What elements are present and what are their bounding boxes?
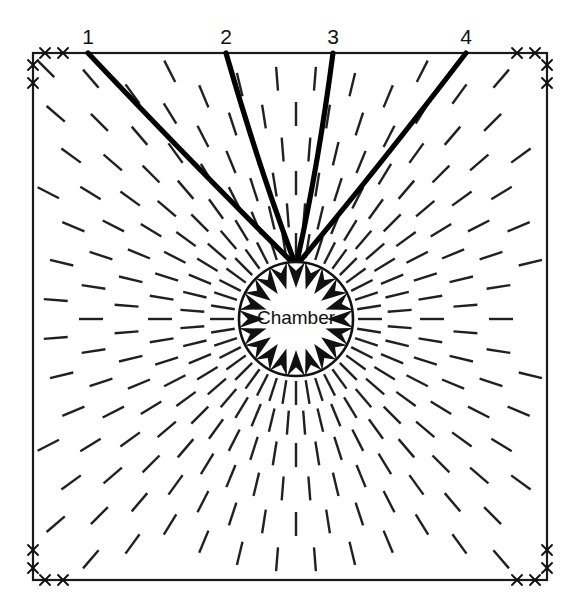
- radial-dash: [44, 337, 68, 339]
- radial-dash: [452, 192, 472, 206]
- radial-dash: [519, 260, 542, 266]
- radial-dash: [287, 411, 289, 435]
- radial-dash: [246, 369, 260, 388]
- radial-dash: [235, 363, 252, 380]
- radial-dash: [83, 550, 99, 568]
- radial-dash: [356, 389, 372, 407]
- radial-dash: [351, 347, 372, 358]
- radial-dash: [480, 252, 503, 260]
- radial-dash: [431, 224, 452, 237]
- radial-dash: [229, 113, 237, 136]
- radial-dash: [442, 249, 464, 258]
- radial-dash: [104, 155, 122, 171]
- radial-dash: [178, 181, 194, 199]
- radial-dash: [306, 380, 310, 404]
- radial-dash: [318, 206, 324, 229]
- radial-dash: [511, 149, 530, 163]
- radial-dash: [191, 407, 208, 424]
- radial-dash: [340, 363, 357, 380]
- radial-dash: [369, 199, 383, 218]
- radial-dash: [283, 380, 287, 404]
- radial-dash: [487, 349, 511, 353]
- radial-dash: [229, 430, 240, 451]
- radial-dash: [115, 305, 139, 307]
- radial-dash: [183, 292, 206, 298]
- radial-dash: [493, 550, 509, 568]
- radial-dash: [369, 419, 383, 438]
- radial-dash: [484, 507, 501, 524]
- radial-dash: [252, 404, 261, 426]
- radial-dash: [384, 531, 393, 553]
- radial-dash: [379, 164, 392, 185]
- radial-dash: [262, 105, 266, 129]
- radial-dash: [158, 422, 176, 438]
- radial-dash: [419, 338, 443, 342]
- radial-dash: [445, 493, 461, 511]
- radial-dash: [433, 456, 450, 473]
- radial-dash: [198, 126, 209, 147]
- radial-dash: [164, 61, 175, 82]
- radial-dash: [226, 465, 235, 487]
- radial-dash: [91, 507, 108, 524]
- radial-dash: [384, 407, 401, 424]
- radial-dash: [351, 280, 372, 291]
- radial-dash: [350, 542, 356, 565]
- radial-dash: [235, 258, 252, 275]
- radial-dash: [183, 341, 206, 347]
- radial-dash: [366, 244, 384, 260]
- radial-dash: [468, 407, 489, 418]
- radial-dash: [442, 380, 464, 389]
- radial-dash: [331, 404, 340, 426]
- radial-dash: [164, 514, 177, 534]
- radial-dash: [103, 221, 124, 232]
- radial-dash: [273, 442, 277, 466]
- radial-dash: [452, 84, 466, 103]
- radial-dash: [324, 374, 335, 395]
- radial-dash: [199, 531, 208, 553]
- radial-dash: [396, 232, 415, 246]
- radial-dash: [511, 475, 530, 489]
- radial-dash: [50, 260, 73, 266]
- radial-dash: [209, 419, 223, 438]
- radial-dash: [143, 166, 160, 183]
- radial-dash: [38, 440, 59, 451]
- radial-dash: [386, 341, 409, 347]
- diagram-canvas: 1234 Chamber: [0, 0, 582, 603]
- radial-dash: [470, 155, 488, 171]
- radial-dash: [103, 407, 124, 418]
- radial-dash: [80, 187, 100, 200]
- radial-dash: [480, 379, 503, 387]
- radial-dash: [356, 231, 372, 249]
- radial-dash: [508, 222, 530, 231]
- radial-dash: [346, 269, 365, 283]
- radial-dash: [226, 355, 245, 369]
- radial-dash: [191, 214, 208, 231]
- radial-dash: [128, 249, 150, 258]
- radial-dash: [374, 258, 395, 271]
- radial-dash: [399, 439, 415, 457]
- radial-dash: [221, 389, 237, 407]
- radial-dash: [384, 85, 393, 107]
- radial-dash: [119, 277, 142, 283]
- radial-dash: [91, 114, 108, 131]
- radial-dash: [61, 475, 80, 489]
- radial-dash: [189, 275, 211, 284]
- radial-dash: [407, 375, 428, 386]
- radial-dash: [318, 409, 324, 432]
- radial-dash: [198, 491, 209, 512]
- radial-dash: [250, 437, 257, 460]
- radial-dash: [155, 357, 178, 364]
- radial-dash: [334, 178, 341, 201]
- radial-dash: [201, 454, 214, 475]
- radial-dash: [250, 178, 257, 201]
- fracture-diagram-svg: 1234 Chamber: [0, 0, 582, 603]
- radial-dash: [197, 367, 218, 380]
- radial-dash: [381, 275, 403, 284]
- radial-dash: [90, 252, 113, 260]
- radial-dash: [450, 277, 473, 283]
- radial-dash: [257, 374, 268, 395]
- radial-dash: [519, 373, 542, 379]
- radial-dash: [315, 442, 319, 466]
- radial-dash: [468, 221, 489, 232]
- radial-dash: [269, 409, 275, 432]
